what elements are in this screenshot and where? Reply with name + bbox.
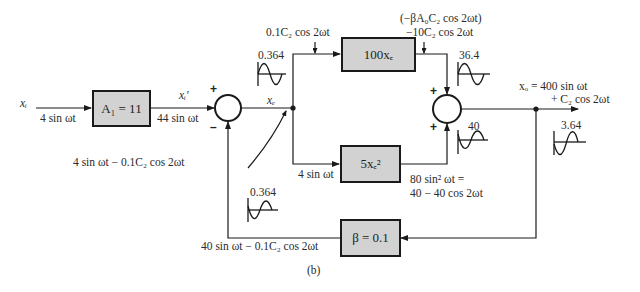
feedback-beta-block: β = 0.1: [340, 219, 401, 257]
waveform-output-icon: [554, 131, 586, 155]
lower-branch-value: 4 sin ωt: [298, 168, 334, 181]
upper-branch: [293, 54, 340, 108]
output-line2: + C₂ cos 2ωt: [551, 93, 610, 106]
forward-nonlinear-block: 5xₑ²: [340, 145, 401, 183]
feedback-signal-value: 40 sin ωt − 0.1C₂ cos 2ωt: [201, 240, 318, 253]
sum1-minus-sign: –: [210, 120, 217, 134]
forward-linear-block: 100xₑ: [341, 37, 416, 72]
summing-junction-2: [433, 95, 461, 123]
waveform-error-icon: [258, 62, 286, 86]
waveform-lower-amplitude: 40: [468, 120, 480, 133]
waveform-output-amplitude: 3.64: [561, 119, 581, 132]
waveform-feedback-icon: [248, 198, 278, 222]
nonlinear-out-line2: 40 − 40 cos 2ωt: [410, 187, 483, 200]
output-node: [533, 106, 538, 111]
sum2-top-plus-sign: +: [430, 84, 437, 98]
inject-right-line1: (−βA₀C₂ cos 2ωt): [400, 12, 482, 25]
amplifier-block-a1: A₁ = 11: [92, 90, 151, 127]
sum2-bottom-plus-sign: +: [430, 120, 437, 134]
summing-junction-1: [215, 95, 241, 121]
figure-label: (b): [307, 264, 320, 277]
inject-upper-label: 0.1C₂ cos 2ωt: [266, 26, 330, 39]
lower-branch: [293, 108, 339, 164]
block-diagram-wiring: [0, 0, 640, 292]
error-pointer: [248, 111, 286, 168]
waveform-lower-sum-icon: [458, 130, 488, 154]
waveform-upper-sum-icon: [458, 62, 490, 86]
input-signal-name: xᵢ: [20, 97, 27, 110]
amp-out-name: xᵢ′: [179, 89, 188, 102]
error-signal-name: xₑ: [267, 94, 275, 107]
nonlinear-out-line1: 80 sin² ωt =: [410, 173, 464, 186]
output-line1: xₒ = 400 sin ωt: [519, 80, 587, 93]
error-signal-value: 4 sin ωt − 0.1C₂ cos 2ωt: [73, 156, 185, 169]
waveform-feedback-amplitude: 0.364: [250, 186, 276, 199]
lower-to-sum2: [400, 124, 447, 164]
amp-out-value: 44 sin ωt: [157, 112, 198, 125]
waveform-upper-amplitude: 36.4: [459, 49, 479, 62]
input-signal-value: 4 sin ωt: [40, 112, 76, 125]
inject-right-line2: −10C₂ cos 2ωt: [406, 26, 473, 39]
waveform-error-amplitude: 0.364: [258, 49, 284, 62]
branch-node: [290, 105, 295, 110]
sum1-plus-sign: +: [210, 82, 217, 96]
